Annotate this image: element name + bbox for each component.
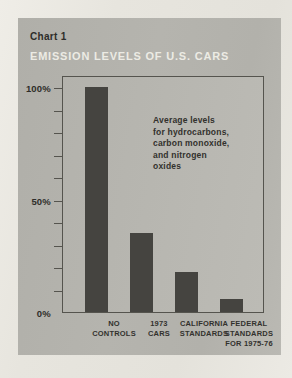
y-axis-tick-70 [54, 156, 62, 157]
y-axis-tick-100 [54, 88, 62, 89]
y-axis-tick-10 [54, 291, 62, 292]
y-axis-tick-30 [54, 246, 62, 247]
x-axis-label-line: FEDERAL [217, 319, 281, 329]
y-axis-label-100: 100% [18, 83, 51, 94]
y-axis-tick-60 [54, 178, 62, 179]
x-axis-label-federal-standards-for-1975-76: FEDERALSTANDARDSFOR 1975-76 [217, 319, 281, 349]
plot-frame [62, 76, 264, 313]
y-axis-tick-90 [54, 111, 62, 112]
page-background: Chart 1 EMISSION LEVELS OF U.S. CARS Ave… [0, 0, 292, 378]
bar-1973-cars [130, 233, 153, 312]
y-axis-label-50: 50% [18, 196, 51, 207]
chart-card: Chart 1 EMISSION LEVELS OF U.S. CARS Ave… [18, 18, 281, 355]
y-axis-tick-40 [54, 223, 62, 224]
x-axis-label-line: STANDARDS [217, 329, 281, 339]
bar-california-standards [175, 272, 198, 313]
y-axis-tick-20 [54, 268, 62, 269]
chart-annotation: Average levels for hydrocarbons, carbon … [153, 115, 229, 173]
chart-title: EMISSION LEVELS OF U.S. CARS [30, 50, 229, 62]
y-axis-tick-50 [54, 201, 62, 202]
y-axis-label-0: 0% [18, 308, 51, 319]
y-axis-tick-80 [54, 133, 62, 134]
bar-federal-standards-for-1975-76 [220, 299, 243, 313]
x-axis-label-line: FOR 1975-76 [217, 339, 281, 349]
bar-no-controls [85, 87, 108, 312]
chart-number: Chart 1 [30, 31, 67, 42]
